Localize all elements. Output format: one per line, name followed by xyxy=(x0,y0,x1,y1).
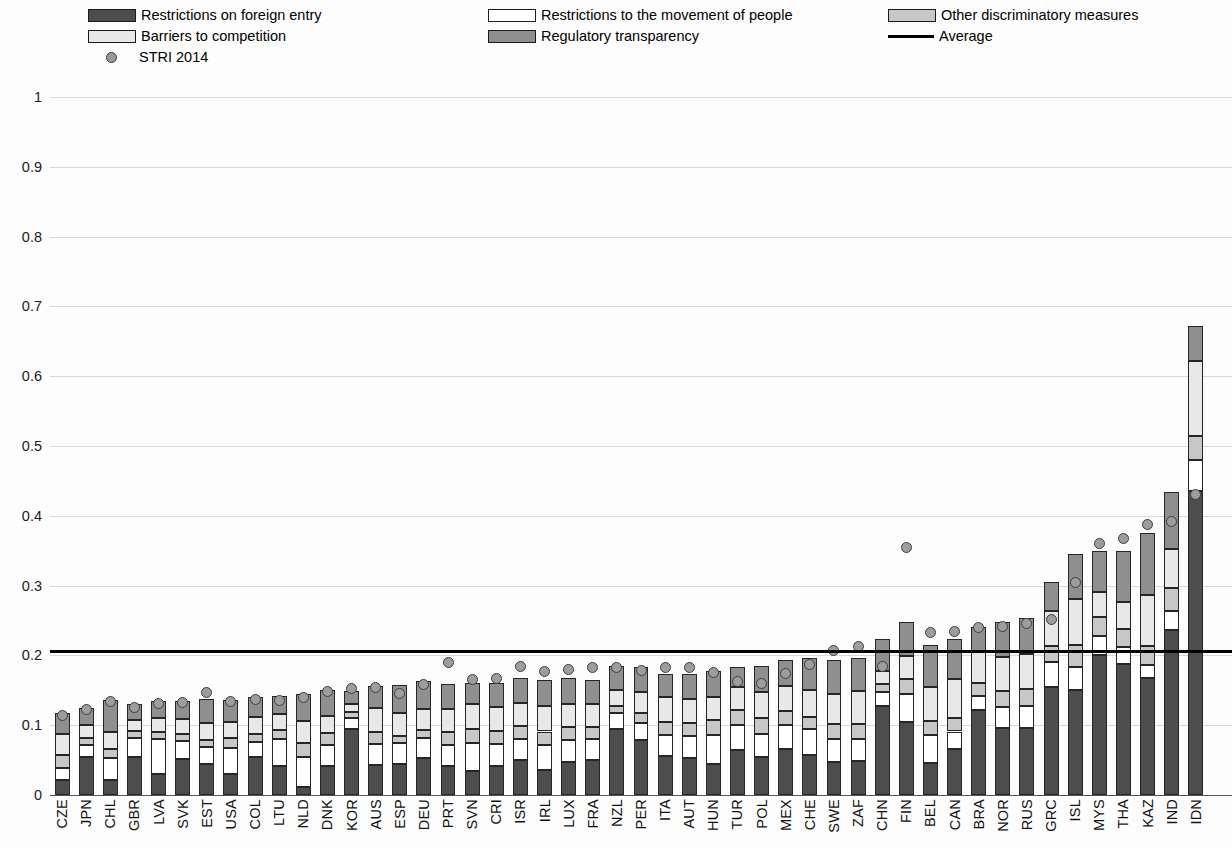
bar-segment xyxy=(875,692,890,706)
bar-segment xyxy=(103,732,118,749)
bar-lva[interactable] xyxy=(151,701,166,795)
x-axis-tick-label-deu: DEU xyxy=(416,799,432,830)
bar-lux[interactable] xyxy=(561,678,576,795)
stri-2014-dot xyxy=(684,662,695,673)
bar-segment xyxy=(1019,689,1034,706)
x-axis-tick-label-isl: ISL xyxy=(1067,799,1083,821)
bar-segment xyxy=(634,740,649,795)
bar-gbr[interactable] xyxy=(127,704,142,795)
x-axis-tick-label-cze: CZE xyxy=(54,799,70,829)
bar-segment xyxy=(223,748,238,775)
bar-dnk[interactable] xyxy=(320,690,335,795)
bar-segment xyxy=(682,674,697,700)
bar-segment xyxy=(344,718,359,729)
stri-2014-dot xyxy=(394,688,405,699)
bar-deu[interactable] xyxy=(416,681,431,795)
bar-col[interactable] xyxy=(248,697,263,795)
bar-fin[interactable] xyxy=(899,622,914,795)
bar-mex[interactable] xyxy=(778,660,793,795)
bar-mys[interactable] xyxy=(1092,551,1107,795)
bar-cri[interactable] xyxy=(489,683,504,795)
bar-segment xyxy=(537,680,552,707)
bar-hun[interactable] xyxy=(706,671,721,795)
bar-aus[interactable] xyxy=(368,686,383,795)
bar-segment xyxy=(79,725,94,738)
bar-usa[interactable] xyxy=(223,700,238,795)
bar-segment xyxy=(995,691,1010,707)
bar-nor[interactable] xyxy=(995,622,1010,795)
bar-segment xyxy=(585,680,600,704)
bar-segment xyxy=(416,730,431,738)
stri-2014-dot xyxy=(467,674,478,685)
bar-segment xyxy=(441,684,456,709)
stri-2014-dot xyxy=(901,542,912,553)
bar-segment xyxy=(827,739,842,762)
bar-esp[interactable] xyxy=(392,685,407,795)
bar-svk[interactable] xyxy=(175,701,190,795)
bar-segment xyxy=(392,743,407,764)
bar-segment xyxy=(851,691,866,724)
bar-segment xyxy=(272,739,287,766)
x-axis-tick-label-nld: NLD xyxy=(295,799,311,829)
x-axis-tick-label-usa: USA xyxy=(223,799,239,829)
bar-segment xyxy=(1092,551,1107,592)
bar-aut[interactable] xyxy=(682,674,697,795)
bar-irl[interactable] xyxy=(537,680,552,795)
bar-kaz[interactable] xyxy=(1140,533,1155,795)
bar-segment xyxy=(199,764,214,795)
bar-segment xyxy=(947,732,962,749)
bar-segment xyxy=(947,639,962,679)
bar-segment xyxy=(1044,687,1059,795)
stri-2014-dot xyxy=(636,665,647,676)
bar-segment xyxy=(368,708,383,732)
bar-segment xyxy=(320,733,335,746)
bar-tha[interactable] xyxy=(1116,551,1131,795)
bar-ita[interactable] xyxy=(658,674,673,795)
bar-svn[interactable] xyxy=(465,683,480,795)
bar-swe[interactable] xyxy=(827,660,842,795)
bar-ltu[interactable] xyxy=(272,696,287,795)
bar-segment xyxy=(368,732,383,744)
bar-segment xyxy=(441,732,456,745)
bar-per[interactable] xyxy=(634,667,649,795)
bar-segment xyxy=(827,694,842,724)
bar-fra[interactable] xyxy=(585,680,600,795)
x-axis-tick-label-hun: HUN xyxy=(705,799,721,831)
bar-bel[interactable] xyxy=(923,645,938,795)
bar-est[interactable] xyxy=(199,699,214,795)
bar-prt[interactable] xyxy=(441,684,456,795)
bar-segment xyxy=(223,722,238,737)
bar-segment xyxy=(585,727,600,739)
bar-segment xyxy=(851,724,866,739)
bar-cze[interactable] xyxy=(55,713,70,795)
bar-segment xyxy=(1044,646,1059,662)
x-axis-tick-label-est: EST xyxy=(199,799,215,828)
bar-segment xyxy=(79,757,94,795)
bar-zaf[interactable] xyxy=(851,658,866,796)
bar-rus[interactable] xyxy=(1019,618,1034,795)
bar-ind[interactable] xyxy=(1164,492,1179,795)
bar-che[interactable] xyxy=(802,658,817,795)
stri-2014-dot xyxy=(1094,538,1105,549)
bar-chl[interactable] xyxy=(103,700,118,795)
bar-jpn[interactable] xyxy=(79,708,94,795)
stri-2014-dot xyxy=(1070,577,1081,588)
bar-isr[interactable] xyxy=(513,678,528,795)
x-axis-tick-label-gbr: GBR xyxy=(126,799,142,831)
bar-segment xyxy=(1188,326,1203,361)
bars-layer xyxy=(0,0,1232,847)
bar-segment xyxy=(55,780,70,795)
bar-nzl[interactable] xyxy=(609,666,624,795)
bar-nld[interactable] xyxy=(296,694,311,795)
bar-kor[interactable] xyxy=(344,691,359,795)
x-axis-tick-label-lva: LVA xyxy=(151,799,167,825)
bar-idn[interactable] xyxy=(1188,326,1203,795)
x-axis-tick-label-cri: CRI xyxy=(488,799,504,825)
bar-isl[interactable] xyxy=(1068,554,1083,796)
x-axis-tick-label-kaz: KAZ xyxy=(1140,799,1156,828)
bar-can[interactable] xyxy=(947,639,962,795)
stri-2014-dot xyxy=(418,679,429,690)
x-axis-tick-label-chn: CHN xyxy=(874,799,890,831)
bar-segment xyxy=(658,735,673,756)
x-axis-tick-label-isr: ISR xyxy=(512,799,528,824)
